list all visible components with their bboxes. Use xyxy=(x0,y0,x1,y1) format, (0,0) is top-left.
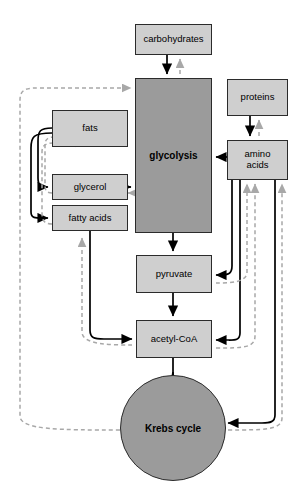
node-carbohydrates-label: carbohydrates xyxy=(143,34,203,45)
node-glycerol-label: glycerol xyxy=(74,182,107,193)
edge-acetyl-coa-to-amino-acids xyxy=(216,184,255,348)
node-glycolysis-label: glycolysis xyxy=(149,150,197,161)
edge-amino-acids-to-krebs-cycle xyxy=(228,180,275,423)
node-acetyl-coa-label: acetyl-CoA xyxy=(151,334,197,345)
node-glycolysis[interactable]: glycolysis xyxy=(135,78,212,233)
node-fatty-acids-label: fatty acids xyxy=(69,213,112,224)
node-glycerol[interactable]: glycerol xyxy=(52,174,128,200)
node-fats-label: fats xyxy=(82,123,97,134)
node-amino-acids[interactable]: amino acids xyxy=(227,140,288,180)
edge-amino-acids-to-pyruvate xyxy=(216,180,232,275)
node-fatty-acids[interactable]: fatty acids xyxy=(52,205,128,231)
node-pyruvate[interactable]: pyruvate xyxy=(136,255,212,293)
node-amino-acids-label: amino acids xyxy=(245,149,271,170)
node-acetyl-coa[interactable]: acetyl-CoA xyxy=(136,320,212,358)
node-pyruvate-label: pyruvate xyxy=(156,269,192,280)
node-fats[interactable]: fats xyxy=(52,110,128,147)
edge-fatty-acids-to-acetyl-coa xyxy=(90,231,132,339)
node-krebs-cycle[interactable]: Krebs cycle xyxy=(120,375,226,481)
node-krebs-cycle-label: Krebs cycle xyxy=(145,423,201,434)
node-proteins-label: proteins xyxy=(241,92,275,103)
edge-krebs-cycle-to-amino-acids xyxy=(228,184,282,430)
metabolic-pathway-diagram: carbohydrates glycolysis proteins amino … xyxy=(0,0,306,500)
node-carbohydrates[interactable]: carbohydrates xyxy=(135,24,212,55)
edge-fats-to-glycerol xyxy=(38,128,52,187)
edge-amino-acids-to-acetyl-coa xyxy=(216,180,240,340)
node-proteins[interactable]: proteins xyxy=(227,79,288,116)
